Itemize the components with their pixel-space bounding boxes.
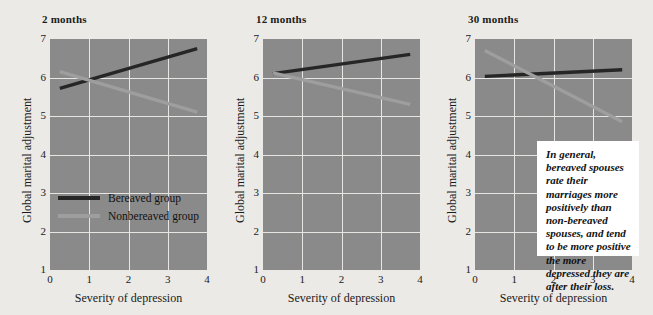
panel-title-2: 30 months	[468, 13, 518, 25]
series-line-bereaved	[485, 70, 622, 77]
series-line-bereaved	[273, 54, 410, 73]
x-axis-label-1: Severity of depression	[272, 291, 412, 306]
x-tick-label: 1	[82, 273, 96, 285]
y-tick-label: 7	[32, 32, 46, 44]
series-line-nonbereaved	[485, 51, 622, 122]
panel-title-0: 2 months	[42, 13, 87, 25]
y-axis-label-1: Global marital adjustment	[233, 97, 248, 222]
legend-swatch-nonbereaved	[58, 214, 100, 218]
x-tick-label: 3	[374, 273, 388, 285]
series-line-nonbereaved	[60, 72, 197, 112]
x-tick-label: 4	[413, 273, 427, 285]
y-tick-label: 6	[245, 71, 259, 83]
x-tick-label: 1	[507, 273, 521, 285]
plot-area-0	[50, 39, 207, 270]
x-tick-label: 2	[335, 273, 349, 285]
x-tick-label: 3	[161, 273, 175, 285]
plot-area-1	[263, 39, 420, 270]
x-axis-label-2: Severity of depression	[484, 291, 624, 306]
x-axis-label-0: Severity of depression	[59, 291, 199, 306]
y-axis-label-0: Global marital adjustment	[20, 97, 35, 222]
x-tick-label: 0	[43, 273, 57, 285]
legend-item-0: Bereaved group	[58, 192, 199, 204]
y-tick-label: 7	[245, 32, 259, 44]
y-tick-label: 6	[457, 71, 471, 83]
y-tick-label: 2	[32, 225, 46, 237]
y-tick-label: 2	[245, 225, 259, 237]
x-tick-label: 4	[200, 273, 214, 285]
x-tick-label: 1	[295, 273, 309, 285]
legend-label-1: Nonbereaved group	[108, 210, 199, 222]
figure-three-panel-line-chart: 2 months123456701234Severity of depressi…	[0, 0, 653, 315]
x-tick-label: 0	[256, 273, 270, 285]
x-tick-label: 2	[122, 273, 136, 285]
series-layer-1	[263, 39, 420, 270]
callout-box: In general, bereaved spouses rate their …	[537, 141, 639, 256]
series-layer-0	[50, 39, 207, 270]
series-line-bereaved	[60, 49, 197, 89]
y-tick-label: 6	[32, 71, 46, 83]
panel-title-1: 12 months	[256, 13, 306, 25]
legend: Bereaved groupNonbereaved group	[58, 192, 199, 228]
legend-swatch-bereaved	[58, 196, 100, 200]
legend-label-0: Bereaved group	[108, 192, 181, 204]
series-line-nonbereaved	[273, 73, 410, 105]
y-tick-label: 2	[457, 225, 471, 237]
legend-item-1: Nonbereaved group	[58, 210, 199, 222]
x-tick-label: 0	[468, 273, 482, 285]
y-tick-label: 7	[457, 32, 471, 44]
y-axis-label-2: Global marital adjustment	[445, 97, 460, 222]
